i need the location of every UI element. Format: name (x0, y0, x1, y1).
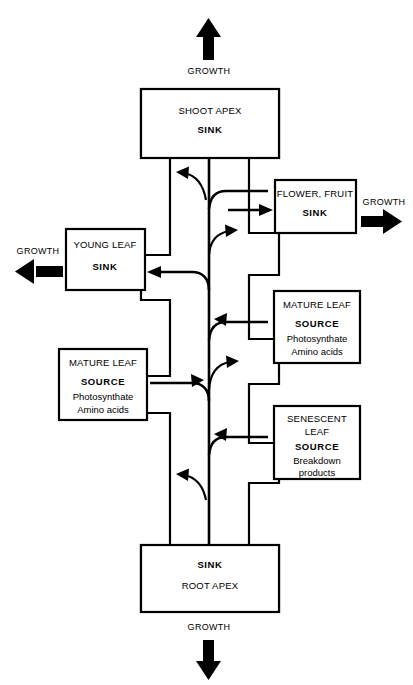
growth-arrow-bottom-head (196, 661, 221, 680)
arrow-senescent-source-to-axis (209, 437, 268, 455)
growth-left-group: GROWTH (15, 246, 63, 284)
growth-label-right: GROWTH (363, 197, 406, 207)
root-apex-name: ROOT APEX (182, 580, 239, 591)
arrowhead-axis-feeder-to-flower (225, 225, 238, 238)
source-sink-diagram: SHOOT APEX SINK FLOWER, FRUIT SINK YOUNG… (0, 0, 413, 685)
shoot-apex-name: SHOOT APEX (178, 105, 242, 116)
mature-leaf-right-detail-2: Amino acids (291, 346, 343, 357)
senescent-leaf-role: SOURCE (295, 441, 339, 452)
growth-arrow-left-shaft (36, 266, 63, 277)
growth-right-group: GROWTH (361, 197, 405, 234)
growth-label-top: GROWTH (188, 66, 231, 76)
senescent-leaf-detail-2: products (299, 467, 336, 478)
mature-leaf-left-detail-1: Photosynthate (73, 391, 134, 402)
shoot-apex-role: SINK (197, 124, 222, 135)
senescent-leaf-name-1: SENESCENT (287, 413, 347, 424)
growth-arrow-right-head (383, 209, 402, 234)
arrowhead-axis-up-to-mature-right (226, 356, 239, 369)
arrow-mature-left-source-to-axis (150, 383, 209, 401)
mature-leaf-right-detail-1: Photosynthate (287, 333, 348, 344)
growth-top-group: GROWTH (188, 18, 231, 76)
growth-bottom-group: GROWTH (188, 622, 231, 680)
growth-label-bottom: GROWTH (188, 622, 231, 632)
mature-leaf-left-role: SOURCE (81, 376, 125, 387)
arrowhead-axis-to-lower-left (176, 469, 189, 482)
mature-leaf-left-detail-2: Amino acids (77, 404, 129, 415)
growth-arrow-top-head (196, 18, 221, 37)
flower-fruit-role: SINK (302, 207, 327, 218)
senescent-leaf-name-2: LEAF (305, 426, 330, 437)
senescent-leaf-detail-1: Breakdown (293, 455, 341, 466)
growth-label-left: GROWTH (17, 246, 60, 256)
arrowhead-axis-to-flower-fruit (259, 204, 273, 216)
flower-fruit-name: FLOWER, FRUIT (277, 188, 354, 199)
arrow-mature-right-source-to-axis (209, 322, 268, 340)
mature-leaf-left-name: MATURE LEAF (69, 357, 137, 368)
young-leaf-name: YOUNG LEAF (73, 239, 136, 250)
arrow-axis-up-to-mature-right (209, 362, 230, 390)
box-root-apex (141, 545, 279, 612)
arrow-to-young-leaf-sink (160, 272, 209, 290)
growth-arrow-left-head (15, 259, 34, 284)
arrowhead-to-young-leaf-sink (147, 266, 161, 278)
diagram-canvas: SHOOT APEX SINK FLOWER, FRUIT SINK YOUNG… (0, 0, 413, 685)
mature-leaf-right-role: SOURCE (295, 318, 339, 329)
young-leaf-role: SINK (92, 261, 117, 272)
root-apex-role: SINK (197, 559, 222, 570)
mature-leaf-right-name: MATURE LEAF (283, 299, 351, 310)
arrowhead-axis-to-young-leaf-upper (176, 167, 189, 180)
